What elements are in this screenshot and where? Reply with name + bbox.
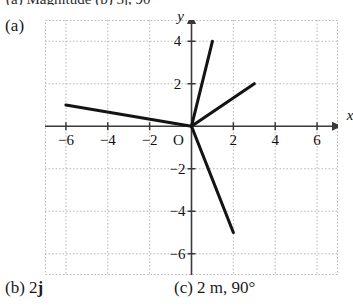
y-tick-4: 4: [174, 33, 182, 50]
answer-c: (c) 2 m, 90°: [174, 278, 255, 298]
answer-b-unit-vector: j: [38, 278, 44, 297]
x-tick--2: −2: [142, 132, 158, 149]
part-a-label: (a): [5, 16, 24, 36]
y-axis-label: y: [177, 8, 184, 25]
x-tick-4: 4: [271, 132, 279, 149]
x-tick-6: 6: [313, 132, 321, 149]
x-axis-label: x: [347, 107, 353, 124]
x-tick--4: −4: [100, 132, 116, 149]
answer-b-coefficient: (b) 2: [5, 278, 38, 297]
x-tick-2: 2: [230, 132, 238, 149]
y-tick-2: 2: [174, 75, 182, 92]
y-tick--2: −2: [170, 160, 186, 177]
x-tick--6: −6: [58, 132, 74, 149]
y-tick--4: −4: [170, 203, 186, 220]
clipped-header-text: (a) Magnitude (b) 5j, 90°: [0, 0, 346, 5]
answers-row: (b) 2j (c) 2 m, 90°: [0, 278, 346, 308]
origin-label: O: [173, 132, 184, 149]
coordinate-graph: −6−4−224642−2−4−6Oxy: [45, 20, 338, 275]
y-tick--6: −6: [170, 245, 186, 262]
answer-b: (b) 2j: [5, 278, 43, 298]
clipped-header-left: (a) Magnitude (b) 5j, 90°: [6, 0, 157, 5]
tick-labels: −6−4−224642−2−4−6Oxy: [45, 20, 338, 275]
